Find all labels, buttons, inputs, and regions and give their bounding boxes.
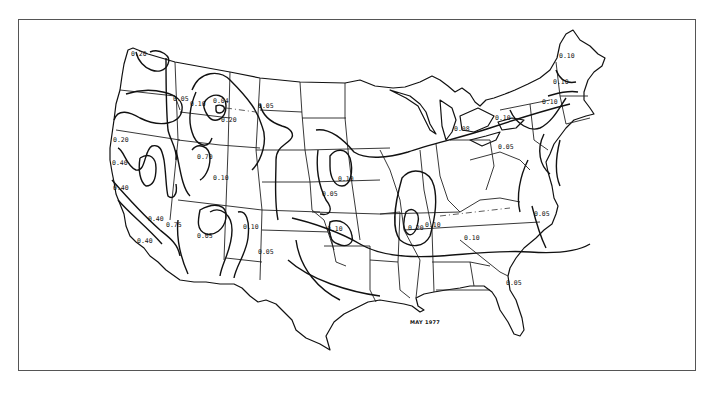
- contour-label: 0.05: [197, 232, 213, 240]
- contour-label: 0.10: [213, 174, 229, 182]
- contour-label: 0.10: [553, 78, 569, 86]
- contour-label: 0.40: [137, 237, 153, 245]
- contour-label: 0.10: [495, 114, 511, 122]
- contour-label: 0.10: [542, 98, 558, 106]
- us-contour-map: 0.20 0.05 0.10 0.04 0.20 0.05 0.20 0.40 …: [0, 0, 711, 395]
- contour-label: 0.10: [464, 234, 480, 242]
- contour-label: 0.10: [338, 175, 354, 183]
- contour-label: 0.10: [327, 225, 343, 233]
- contour-label: 0.40: [112, 159, 128, 167]
- contour-label: 0.10: [243, 223, 259, 231]
- date-annotation: MAY 1977: [410, 319, 440, 325]
- contour-label: 0.75: [166, 221, 182, 229]
- contour-label: 0.05: [534, 210, 550, 218]
- contour-label: 0.05: [258, 248, 274, 256]
- contour-label: 0.40: [113, 184, 129, 192]
- contour-label: 0.10: [425, 221, 441, 229]
- contour-label: 0.20: [221, 116, 237, 124]
- contour-label: 0.08: [454, 125, 470, 133]
- contour-label: 0.05: [506, 279, 522, 287]
- contour-label: 0.10: [190, 100, 206, 108]
- contour-label: 0.05: [173, 95, 189, 103]
- contour-label: 0.05: [498, 143, 514, 151]
- contour-label: 0.05: [258, 102, 274, 110]
- us-coastline: [110, 30, 605, 350]
- contour-label: 0.20: [113, 136, 129, 144]
- contour-label: 0.70: [197, 153, 213, 161]
- contour-label: 0.20: [408, 224, 424, 232]
- contour-label: 0.20: [131, 50, 147, 58]
- contour-label: 0.10: [559, 52, 575, 60]
- dashed-boundary-line: [226, 108, 256, 112]
- contour-label: 0.05: [322, 190, 338, 198]
- contour-label: 0.04: [213, 97, 229, 105]
- contour-label: 0.40: [148, 215, 164, 223]
